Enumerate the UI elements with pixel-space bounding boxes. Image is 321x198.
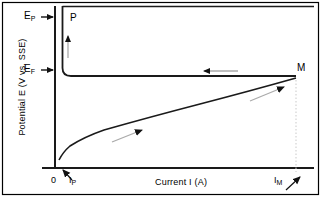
point-m-label: M [297,63,305,73]
y-axis-title: Potential E (V vs. SSE) [11,23,29,151]
ep-symbol: E [24,10,31,21]
figure-border [3,3,319,195]
origin-tick-label: 0 [51,176,56,185]
ip-tick-label: IP [69,176,76,186]
passive-branch-curve [63,6,297,76]
im-pointer-arrow [286,177,300,190]
x-axis-title: Current I (A) [155,178,207,187]
plot-canvas [0,0,321,198]
im-tick-label: IM [274,176,282,186]
ef-tick-label: EF [24,64,35,75]
ep-subscript: P [31,15,36,22]
ef-symbol: E [24,63,31,74]
polarization-curve-figure: Potential E (V vs. SSE) Current I (A) EP… [0,0,321,198]
ef-subscript: F [31,68,35,75]
y-axis-title-text: Potential E (V vs. SSE) [17,38,27,135]
point-p-label: P [70,13,77,23]
ip-subscript: P [72,179,77,186]
active-branch-curve [59,78,296,160]
ep-tick-label: EP [24,11,35,22]
im-subscript: M [277,179,283,186]
active-direction-arrow [112,130,142,142]
